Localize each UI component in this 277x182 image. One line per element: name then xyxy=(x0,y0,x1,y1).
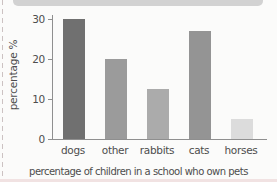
x-tick-label-horses: horses xyxy=(225,144,258,156)
y-tick-label-20: 20 xyxy=(32,53,45,65)
x-tick-label-rabbits: rabbits xyxy=(140,144,175,156)
x-axis-labels: dogsotherrabbitscatshorses xyxy=(52,144,266,158)
bar-cats xyxy=(189,31,211,139)
y-tick-mark xyxy=(48,19,52,20)
worksheet-page: percentage % 0102030 dogsotherrabbitscat… xyxy=(0,0,277,182)
chart-caption: percentage of children in a school who o… xyxy=(0,166,277,177)
x-tick-label-other: other xyxy=(102,144,128,156)
y-tick-label-30: 30 xyxy=(32,13,45,25)
y-axis-label: percentage % xyxy=(7,40,19,111)
bar-rabbits xyxy=(147,89,169,139)
x-tick-label-dogs: dogs xyxy=(61,144,85,156)
top-rounded-strip xyxy=(13,0,263,6)
y-tick-label-0: 0 xyxy=(39,133,45,145)
y-tick-mark xyxy=(48,99,52,100)
y-tick-mark xyxy=(48,139,52,140)
bar-other xyxy=(105,59,127,139)
bottom-page-strip xyxy=(0,179,277,182)
bar-horses xyxy=(231,119,253,139)
y-tick-mark xyxy=(48,59,52,60)
x-tick-label-cats: cats xyxy=(189,144,210,156)
y-tick-label-10: 10 xyxy=(32,93,45,105)
plot-area: 0102030 xyxy=(52,15,267,140)
bar-dogs xyxy=(63,19,85,139)
page-edge-dashed-line xyxy=(2,0,3,182)
